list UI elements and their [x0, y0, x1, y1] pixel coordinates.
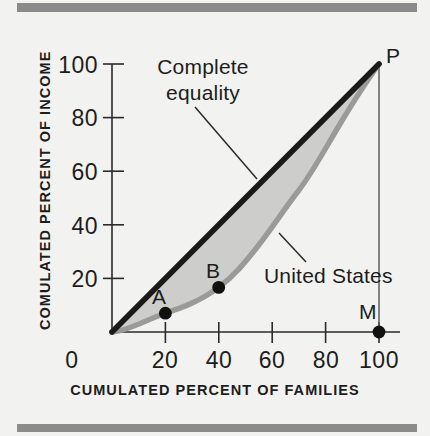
point-label-m: M [359, 300, 377, 324]
point-label-a: A [152, 285, 166, 309]
y-axis-ticks [103, 64, 124, 278]
annotation-complete-equality-line2: equality [128, 81, 278, 105]
annotation-complete-equality-line1: Complete [128, 55, 278, 79]
x-tick-label-0: 0 [52, 347, 92, 374]
point-label-p: P [386, 44, 400, 68]
data-point-m [373, 326, 386, 339]
united-states-leader-line [279, 233, 306, 262]
x-tick-label-60: 60 [252, 347, 292, 374]
annotation-united-states: United States [264, 264, 393, 288]
x-tick-label-20: 20 [145, 347, 185, 374]
x-axis-title: CUMULATED PERCENT OF FAMILIES [0, 382, 430, 398]
x-tick-label-40: 40 [199, 347, 239, 374]
y-axis-title: COMULATED PERCENT OF INCOME [37, 51, 53, 330]
x-tick-label-100: 100 [357, 347, 401, 374]
complete-equality-leader-line [195, 107, 257, 179]
point-label-b: B [206, 259, 220, 283]
lorenz-curve-figure: 100 80 60 40 20 0 20 40 60 80 100 COMULA… [0, 0, 430, 436]
x-tick-label-80: 80 [306, 347, 346, 374]
